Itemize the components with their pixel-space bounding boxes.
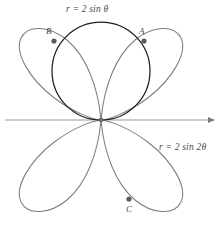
point-marker-c [126,196,131,201]
figure-canvas [0,0,224,226]
circle-path [52,22,150,120]
point-marker-a [141,38,146,43]
rose-petal-lower-left [19,120,101,212]
rose-petal-lower-right [101,120,183,212]
point-marker-b [51,38,56,43]
circle-curve [52,22,150,120]
rose-equation-label: r = 2 sin 2θ [159,143,206,153]
point-label-c: C [126,205,132,214]
polar-curves-figure: r = 2 sin θ r = 2 sin 2θ A B C [0,0,224,226]
point-marker-origin [99,118,104,123]
circle-equation-label: r = 2 sin θ [66,5,108,15]
point-label-a: A [139,27,145,36]
rose-petal-upper-left [19,28,101,120]
point-label-b: B [46,27,52,36]
